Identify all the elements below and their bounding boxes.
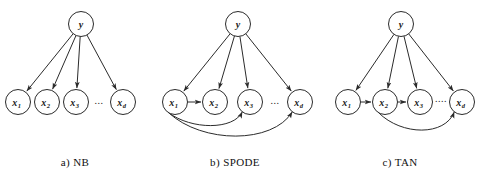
edge-class-to-x3 xyxy=(77,36,80,88)
node-x3-nb[interactable]: x3 xyxy=(64,90,89,115)
node-xd-tan[interactable]: xd xyxy=(450,90,475,115)
edge-class-to-x1 xyxy=(27,34,73,91)
node-x3-tan[interactable]: x3 xyxy=(408,90,433,115)
node-x1-nb[interactable]: x1 xyxy=(6,90,31,115)
ellipsis-nb: ... xyxy=(95,95,104,106)
edge-class-to-x2 xyxy=(388,36,399,88)
class-edges-nb xyxy=(27,34,117,91)
node-x2-spode[interactable]: x2 xyxy=(203,90,228,115)
edge-class-to-x1 xyxy=(356,34,394,90)
edge-class-to-x3 xyxy=(240,36,248,88)
panel-spode: ...yx1x2x3xdb) SPODE xyxy=(163,12,313,170)
caption-spode: b) SPODE xyxy=(210,156,260,169)
node-subscript-x1: 1 xyxy=(175,102,178,109)
ellipsis-tan: .... xyxy=(435,93,447,104)
node-label-y: y xyxy=(78,19,84,30)
caption-nb: a) NB xyxy=(61,156,90,169)
bayesian-network-figure: ...yx1x2x3xda) NB...yx1x2x3xdb) SPODE...… xyxy=(0,0,490,184)
class-edges-tan xyxy=(356,34,454,91)
node-label-y: y xyxy=(235,19,241,30)
attribute-edges-spode xyxy=(169,102,293,136)
node-x3-spode[interactable]: x3 xyxy=(238,90,263,115)
panel-tan: ....yx1x2x3xdc) TAN xyxy=(336,12,475,170)
panels-layer: ...yx1x2x3xda) NB...yx1x2x3xdb) SPODE...… xyxy=(6,12,475,170)
figure-container: ...yx1x2x3xda) NB...yx1x2x3xdb) SPODE...… xyxy=(0,0,490,184)
edge-class-to-x2 xyxy=(53,35,76,89)
edge-class-to-x3 xyxy=(404,36,417,88)
node-xd-spode[interactable]: xd xyxy=(288,90,313,115)
panel-nb: ...yx1x2x3xda) NB xyxy=(6,12,136,170)
node-class-nb[interactable]: y xyxy=(69,12,94,37)
node-class-tan[interactable]: y xyxy=(389,12,414,37)
edge-class-to-xd xyxy=(246,34,292,91)
caption-tan: c) TAN xyxy=(382,156,417,169)
edge-class-to-x2 xyxy=(219,36,235,89)
ellipsis-spode: ... xyxy=(271,95,280,106)
node-x1-tan[interactable]: x1 xyxy=(336,90,361,115)
node-subscript-x1: 1 xyxy=(18,102,21,109)
edge-class-to-x1 xyxy=(184,34,230,91)
edge-x1-to-xd xyxy=(169,112,293,136)
node-x1-spode[interactable]: x1 xyxy=(163,90,188,115)
node-xd-nb[interactable]: xd xyxy=(111,90,136,115)
node-subscript-x1: 1 xyxy=(348,102,351,109)
edge-x2-to-xd xyxy=(379,112,455,130)
edge-class-to-xd xyxy=(87,35,116,90)
node-label-y: y xyxy=(398,19,404,30)
node-x2-nb[interactable]: x2 xyxy=(35,90,60,115)
node-x2-tan[interactable]: x2 xyxy=(373,90,398,115)
class-edges-spode xyxy=(184,34,291,91)
node-class-spode[interactable]: y xyxy=(226,12,251,37)
